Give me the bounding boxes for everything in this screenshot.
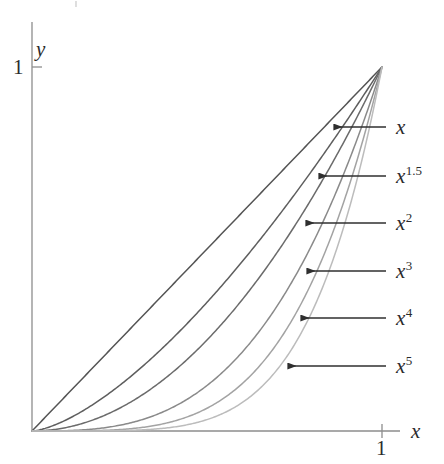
curve-label-x5-base: x [396,354,405,378]
curve-label-x4-base: x [396,306,405,330]
power-function-plot-figure: y 1 x 1 x x1.5 x2 x3 x4 x5 [0,0,444,464]
curve-label-x15: x1.5 [396,166,422,187]
x-axis-label: x [411,421,420,442]
curve-label-x3: x3 [396,261,412,282]
curve-label-x3-base: x [396,259,405,283]
y-axis-label: y [36,39,45,60]
x-tick-label-1: 1 [376,438,387,459]
curve-label-x2: x2 [396,213,412,234]
curve-label-x15-base: x [396,164,405,188]
curve-label-x4-exponent: 4 [406,305,413,320]
curve-label-x: x [396,117,405,138]
curve-label-x3-exponent: 3 [406,258,413,273]
curves-group [32,67,382,431]
curve-label-x15-exponent: 1.5 [406,163,422,178]
curve-label-x2-base: x [396,211,405,235]
curve-label-x5-exponent: 5 [406,353,413,368]
curve-label-x4: x4 [396,308,412,329]
curve-label-x5: x5 [396,356,412,377]
axes-group [32,1,400,438]
curve-label-x2-exponent: 2 [406,210,413,225]
curve-x [32,67,382,431]
y-tick-label-1: 1 [13,57,24,78]
curve-label-x-base: x [396,115,405,139]
plot-canvas [0,0,444,464]
